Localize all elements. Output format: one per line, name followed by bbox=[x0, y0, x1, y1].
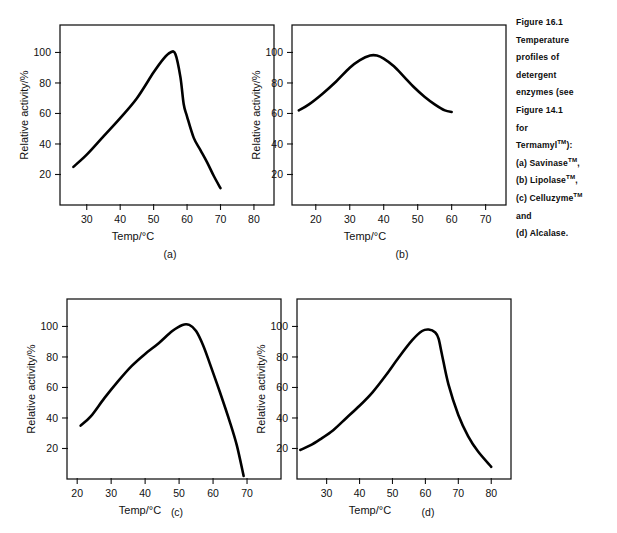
trademark-symbol: TM bbox=[573, 191, 582, 198]
y-axis-title: Relative activity/% bbox=[25, 344, 37, 433]
x-axis-title: Temp/°C bbox=[119, 504, 161, 516]
caption-line: Figure 14.1 bbox=[516, 102, 612, 120]
y-axis-tick-label: 40 bbox=[276, 412, 288, 424]
y-axis-title: Relative activity/% bbox=[18, 70, 30, 159]
x-axis-tick-label: 40 bbox=[354, 487, 366, 499]
y-axis-tick-label: 80 bbox=[271, 77, 283, 89]
y-axis-title: Relative activity/% bbox=[255, 344, 267, 433]
trademark-symbol: TM bbox=[557, 138, 566, 145]
x-axis-tick-label: 70 bbox=[215, 213, 227, 225]
panel-letter-a: (a) bbox=[150, 248, 190, 260]
y-axis-tick-label: 40 bbox=[271, 138, 283, 150]
x-axis-tick-label: 60 bbox=[207, 487, 219, 499]
chart-svg-d: 20406080100304050607080Temp/°CRelative a… bbox=[245, 288, 535, 533]
x-axis-tick-label: 80 bbox=[485, 487, 497, 499]
chart-panel-b: 20406080100203040506070Temp/°CRelative a… bbox=[240, 14, 530, 264]
x-axis-tick-label: 40 bbox=[139, 487, 151, 499]
x-axis-tick-label: 50 bbox=[412, 213, 424, 225]
y-axis-title: Relative activity/% bbox=[250, 70, 262, 159]
y-axis-tick-label: 80 bbox=[46, 351, 58, 363]
y-axis-tick-label: 40 bbox=[46, 412, 58, 424]
y-axis-tick-label: 20 bbox=[39, 168, 51, 180]
x-axis-tick-label: 40 bbox=[378, 213, 390, 225]
y-axis-tick-label: 60 bbox=[39, 107, 51, 119]
x-axis-tick-label: 20 bbox=[310, 213, 322, 225]
caption-line: profiles of bbox=[516, 49, 612, 67]
x-axis-tick-label: 30 bbox=[105, 487, 117, 499]
caption-line: (c) CelluzymeTM bbox=[516, 190, 612, 208]
y-axis-tick-label: 80 bbox=[39, 77, 51, 89]
plot-frame bbox=[292, 25, 506, 205]
figure-container: 20406080100304050607080Temp/°CRelative a… bbox=[0, 0, 617, 533]
y-axis-tick-label: 20 bbox=[271, 168, 283, 180]
caption-line: and bbox=[516, 208, 612, 226]
y-axis-tick-label: 20 bbox=[46, 442, 58, 454]
trademark-symbol: TM bbox=[568, 156, 577, 163]
trademark-symbol: TM bbox=[566, 173, 575, 180]
caption-line: Temperature bbox=[516, 32, 612, 50]
caption-line: Figure 16.1 bbox=[516, 14, 612, 32]
data-curve bbox=[300, 329, 491, 466]
caption-line: enzymes (see bbox=[516, 84, 612, 102]
caption-line: TermamylTM): bbox=[516, 137, 612, 155]
caption-line: (d) Alcalase. bbox=[516, 225, 612, 243]
x-axis-tick-label: 70 bbox=[480, 213, 492, 225]
x-axis-tick-label: 50 bbox=[387, 487, 399, 499]
y-axis-tick-label: 40 bbox=[39, 138, 51, 150]
panel-letter-d: (d) bbox=[408, 506, 448, 518]
caption-line: detergent bbox=[516, 67, 612, 85]
y-axis-tick-label: 60 bbox=[271, 107, 283, 119]
x-axis-tick-label: 30 bbox=[321, 487, 333, 499]
y-axis-tick-label: 100 bbox=[265, 46, 283, 58]
x-axis-tick-label: 70 bbox=[452, 487, 464, 499]
data-curve bbox=[73, 51, 220, 188]
x-axis-tick-label: 30 bbox=[81, 213, 93, 225]
y-axis-tick-label: 100 bbox=[40, 320, 58, 332]
x-axis-tick-label: 50 bbox=[148, 213, 160, 225]
x-axis-tick-label: 20 bbox=[71, 487, 83, 499]
y-axis-tick-label: 20 bbox=[276, 442, 288, 454]
x-axis-tick-label: 60 bbox=[181, 213, 193, 225]
data-curve bbox=[299, 55, 452, 112]
panel-letter-b: (b) bbox=[382, 248, 422, 260]
caption-line: for bbox=[516, 120, 612, 138]
caption-line: (b) LipolaseTM, bbox=[516, 172, 612, 190]
x-axis-tick-label: 60 bbox=[446, 213, 458, 225]
y-axis-tick-label: 60 bbox=[276, 381, 288, 393]
y-axis-tick-label: 100 bbox=[33, 46, 51, 58]
data-curve bbox=[81, 324, 244, 476]
panel-letter-c: (c) bbox=[157, 506, 197, 518]
x-axis-tick-label: 40 bbox=[114, 213, 126, 225]
caption-line: (a) SavinaseTM, bbox=[516, 155, 612, 173]
x-axis-tick-label: 50 bbox=[173, 487, 185, 499]
x-axis-tick-label: 30 bbox=[344, 213, 356, 225]
x-axis-title: Temp/°C bbox=[112, 230, 154, 242]
x-axis-title: Temp/°C bbox=[344, 230, 386, 242]
y-axis-tick-label: 80 bbox=[276, 351, 288, 363]
y-axis-tick-label: 60 bbox=[46, 381, 58, 393]
chart-panel-d: 20406080100304050607080Temp/°CRelative a… bbox=[245, 288, 535, 533]
figure-caption: Figure 16.1Temperatureprofiles ofdeterge… bbox=[516, 14, 612, 243]
x-axis-tick-label: 60 bbox=[420, 487, 432, 499]
x-axis-title: Temp/°C bbox=[349, 504, 391, 516]
chart-svg-b: 20406080100203040506070Temp/°CRelative a… bbox=[240, 14, 530, 264]
y-axis-tick-label: 100 bbox=[270, 320, 288, 332]
